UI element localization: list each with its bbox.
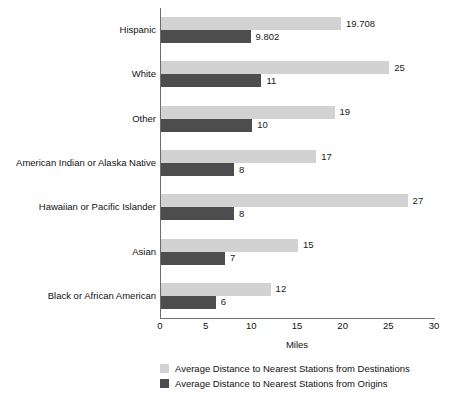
category-label: Hawaiian or Pacific Islander — [39, 202, 156, 212]
bar-group: 2511 — [161, 61, 435, 87]
bar-value-label: 15 — [303, 240, 314, 250]
x-tick-label: 15 — [292, 321, 303, 331]
bar-row: 8 — [161, 207, 435, 220]
bar-row: 27 — [161, 194, 435, 207]
bar-value-label: 8 — [239, 209, 244, 219]
bar-chart: HispanicWhiteOtherAmerican Indian or Ala… — [0, 0, 450, 397]
bar-origins — [161, 207, 234, 220]
legend-swatch-origins-icon — [160, 379, 169, 388]
legend-item-origins: Average Distance to Nearest Stations fro… — [160, 376, 450, 391]
bar-row: 19 — [161, 106, 435, 119]
bar-origins — [161, 252, 225, 265]
legend-label-destinations: Average Distance to Nearest Stations fro… — [175, 364, 410, 374]
category-label: Hispanic — [120, 25, 156, 35]
x-axis-title: Miles — [286, 340, 308, 350]
bar-value-label: 10 — [257, 120, 268, 130]
bar-destinations — [161, 283, 271, 296]
bar-destinations — [161, 106, 335, 119]
bar-row: 8 — [161, 163, 435, 176]
bar-value-label: 19.708 — [346, 19, 375, 29]
bar-row: 17 — [161, 150, 435, 163]
bar-value-label: 7 — [230, 253, 235, 263]
bar-value-label: 12 — [276, 285, 287, 295]
bar-group: 278 — [161, 194, 435, 220]
bar-group: 19.7089.802 — [161, 17, 435, 43]
bar-value-label: 25 — [394, 63, 405, 73]
bar-value-label: 11 — [266, 76, 276, 86]
bar-row: 11 — [161, 74, 435, 87]
bar-origins — [161, 30, 251, 43]
bar-value-label: 6 — [221, 298, 226, 308]
legend-item-destinations: Average Distance to Nearest Stations fro… — [160, 361, 450, 376]
bar-origins — [161, 163, 234, 176]
bar-destinations — [161, 61, 389, 74]
bar-value-label: 27 — [413, 196, 424, 206]
bar-destinations — [161, 150, 316, 163]
bar-group: 126 — [161, 283, 435, 309]
bar-group: 178 — [161, 150, 435, 176]
legend-swatch-destinations-icon — [160, 364, 169, 373]
category-label: Other — [132, 114, 156, 124]
legend-label-origins: Average Distance to Nearest Stations fro… — [175, 379, 388, 389]
bar-value-label: 19 — [340, 107, 351, 117]
bar-row: 6 — [161, 296, 435, 309]
bar-row: 19.708 — [161, 17, 435, 30]
bar-row: 10 — [161, 119, 435, 132]
x-axis-line — [160, 318, 435, 319]
bar-row: 25 — [161, 61, 435, 74]
bar-value-label: 17 — [321, 152, 332, 162]
chart-legend: Average Distance to Nearest Stations fro… — [160, 361, 450, 391]
x-tick-label: 30 — [429, 321, 440, 331]
category-label: White — [132, 69, 156, 79]
category-label: Asian — [132, 247, 156, 257]
bar-row: 9.802 — [161, 30, 435, 43]
x-tick-label: 0 — [157, 321, 162, 331]
bar-value-label: 8 — [239, 165, 244, 175]
category-label: American Indian or Alaska Native — [16, 158, 156, 168]
bar-row: 12 — [161, 283, 435, 296]
x-tick-label: 10 — [246, 321, 257, 331]
plot-area: 19.7089.80225111910178278157126 05101520… — [160, 8, 435, 318]
bar-origins — [161, 119, 252, 132]
bar-group: 157 — [161, 239, 435, 265]
bar-group: 1910 — [161, 106, 435, 132]
x-tick-label: 25 — [383, 321, 394, 331]
bar-value-label: 9.802 — [256, 32, 280, 42]
bar-origins — [161, 74, 261, 87]
bar-destinations — [161, 17, 341, 30]
category-label: Black or African American — [48, 291, 156, 301]
bar-destinations — [161, 194, 408, 207]
bar-destinations — [161, 239, 298, 252]
bar-row: 7 — [161, 252, 435, 265]
x-tick-label: 20 — [337, 321, 348, 331]
x-tick-label: 5 — [203, 321, 208, 331]
bar-row: 15 — [161, 239, 435, 252]
bar-origins — [161, 296, 216, 309]
